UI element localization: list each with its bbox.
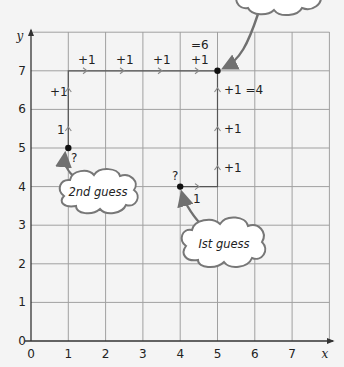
svg-text:4: 4 [176, 347, 184, 361]
svg-text:1: 1 [18, 295, 26, 309]
second-guess-cloud: 2nd guess [60, 169, 138, 213]
svg-text:+1 =4: +1 =4 [224, 83, 263, 97]
svg-text:0: 0 [18, 334, 26, 348]
answer-arrow [224, 14, 258, 68]
svg-text:1: 1 [57, 123, 65, 137]
svg-text:6: 6 [18, 102, 26, 116]
answer-cloud [236, 0, 320, 15]
svg-text:+1: +1 [224, 161, 242, 175]
svg-text:+1: +1 [50, 85, 68, 99]
svg-text:7: 7 [18, 64, 26, 78]
svg-text:5: 5 [214, 347, 222, 361]
coordinate-grid-diagram: 0 1 2 3 4 5 6 7 x 0 1 2 3 4 5 6 7 y [0, 0, 344, 367]
svg-text:2nd guess: 2nd guess [68, 185, 127, 199]
svg-text:=6: =6 [191, 38, 209, 52]
svg-text:0: 0 [27, 347, 35, 361]
svg-text:+1: +1 [224, 122, 242, 136]
svg-text:+1: +1 [153, 53, 171, 67]
svg-text:+1: +1 [116, 53, 134, 67]
svg-text:2: 2 [18, 257, 26, 271]
first-guess-point [177, 183, 183, 189]
svg-text:3: 3 [18, 218, 26, 232]
svg-text:3: 3 [139, 347, 147, 361]
svg-text:7: 7 [288, 347, 296, 361]
answer-point [214, 68, 220, 74]
svg-text:?: ? [71, 151, 77, 165]
y-axis-label: y [16, 29, 24, 43]
y-tick-labels: 0 1 2 3 4 5 6 7 y [16, 29, 26, 348]
svg-text:2: 2 [102, 347, 110, 361]
svg-text:5: 5 [18, 141, 26, 155]
svg-text:6: 6 [251, 347, 259, 361]
svg-text:+1: +1 [191, 53, 209, 67]
svg-text:1: 1 [193, 192, 201, 206]
x-axis-label: x [322, 347, 329, 361]
first-guess-path [180, 71, 217, 187]
svg-text:+1: +1 [78, 53, 96, 67]
svg-text:?: ? [172, 169, 178, 183]
first-guess-cloud: Ist guess [182, 217, 266, 267]
svg-text:1: 1 [64, 347, 72, 361]
svg-text:4: 4 [18, 180, 26, 194]
svg-text:Ist guess: Ist guess [198, 237, 249, 251]
x-tick-labels: 0 1 2 3 4 5 6 7 x [27, 347, 328, 361]
